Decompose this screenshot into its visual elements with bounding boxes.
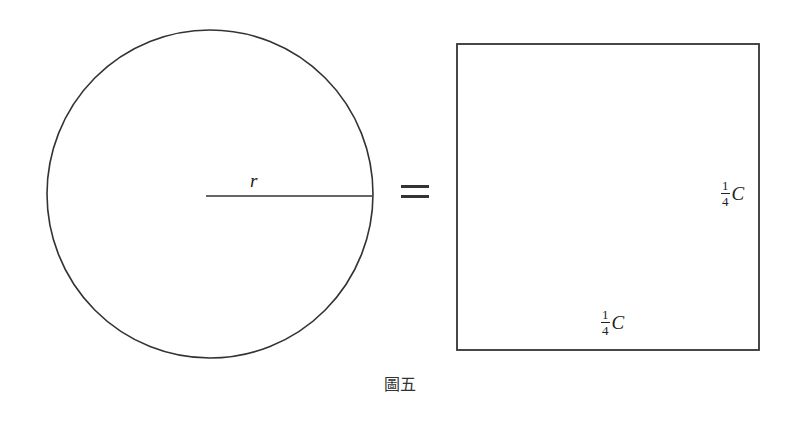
fraction-numerator: 1 <box>601 308 610 323</box>
fraction-variable: C <box>732 183 745 205</box>
equals-sign <box>401 185 429 199</box>
fraction: 1 4 <box>721 179 730 208</box>
figure-caption: 圖五 <box>0 371 799 395</box>
fraction-denominator: 4 <box>722 194 729 208</box>
fraction-denominator: 4 <box>602 323 609 337</box>
square-right-side-label: 1 4 C <box>721 179 744 208</box>
fraction-numerator: 1 <box>721 179 730 194</box>
circle-shape <box>47 30 373 358</box>
fraction-variable: C <box>612 312 625 334</box>
square-bottom-side-label: 1 4 C <box>601 308 624 337</box>
square-shape <box>457 44 759 350</box>
fraction: 1 4 <box>601 308 610 337</box>
diagram-canvas <box>0 0 799 422</box>
radius-label: r <box>250 171 257 190</box>
